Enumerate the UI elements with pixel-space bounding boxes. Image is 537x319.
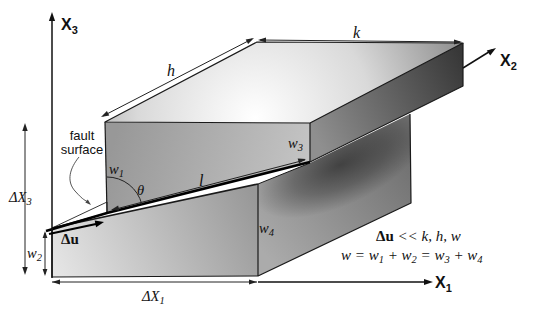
equation-magnitude: Δu << k, h, w [376,228,461,244]
fault-surface-label-line2: surface [61,142,104,157]
dim-label-h: h [167,62,175,79]
dim-label-l: l [199,172,204,189]
dim-label-w2: w2 [27,245,43,263]
dim-label-dx1: ΔX1 [141,288,165,306]
dim-w2 [43,231,48,276]
x3-arrowhead-icon [49,12,55,21]
axis-label-x2: X2 [500,52,517,72]
slip-label: Δu [61,231,79,247]
pointer-arrowhead-icon [85,200,91,205]
diagram-canvas: X3 X2 X1 ΔX3 ΔX1 w1 w2 w3 w4 h k l θ fau… [0,0,537,319]
x1-arrowhead-icon [424,279,433,285]
dim-dx1 [52,280,257,285]
axis-label-x3: X3 [61,16,78,36]
dim-label-k: k [353,24,361,41]
axis-x1 [258,279,433,285]
fault-block-diagram: X3 X2 X1 ΔX3 ΔX1 w1 w2 w3 w4 h k l θ fau… [0,0,537,319]
angle-label-theta: θ [137,182,144,198]
fault-surface-pointer [70,157,91,205]
x2-arrowhead-icon [487,48,496,56]
axis-label-x1: X1 [435,274,452,294]
dim-label-dx3: ΔX3 [8,189,32,207]
equation-width-sum: w = w1 + w2 = w3 + w4 [341,247,483,265]
fault-surface-label-line1: fault [70,128,95,143]
axis-x2 [463,48,496,68]
